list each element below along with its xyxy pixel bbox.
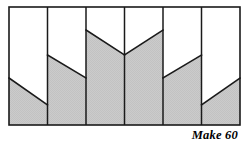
caption-row: Make 60 (0, 126, 240, 144)
make-quantity-caption: Make 60 (192, 128, 240, 143)
quilt-figure (0, 0, 247, 144)
quilt-diagram-page: Make 60 (0, 0, 247, 144)
